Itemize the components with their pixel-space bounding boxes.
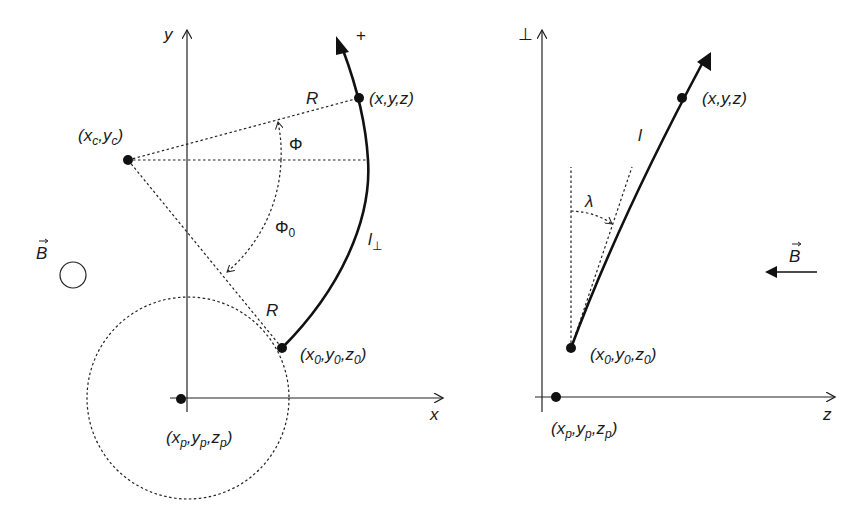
phi-angle-arc <box>278 122 281 160</box>
z-axis-label: z <box>822 405 832 424</box>
phi0-angle-arc <box>227 160 281 272</box>
start-point-label: (x0,y0,z0) <box>590 345 656 367</box>
x-axis-label: x <box>429 405 439 424</box>
radius-label-top: R <box>306 89 318 108</box>
y-axis-label: y <box>163 25 174 44</box>
start-point-label: (x0,y0,z0) <box>300 345 366 367</box>
length-label: l <box>638 126 643 145</box>
phi0-label: Φ0 <box>275 218 296 240</box>
left-panel: y x + (xc,yc) (x,y,z) (x0,y0,z0) ( <box>36 25 443 499</box>
helix-track-diagram: y x + (xc,yc) (x,y,z) (x0,y0,z0) ( <box>0 0 861 514</box>
reference-point-label: (xp,yp,zp) <box>166 428 232 450</box>
field-out-of-plane-icon <box>60 262 86 288</box>
reference-point-label: (xp,yp,zp) <box>551 419 617 441</box>
radius-line-bottom <box>128 160 282 348</box>
center-point-label: (xc,yc) <box>78 126 123 148</box>
right-panel: ⊥ z (x,y,z) (x0,y0,z0) (xp,yp,zp) l λ B <box>518 25 835 441</box>
start-point <box>566 343 576 353</box>
charge-sign: + <box>356 26 366 45</box>
field-label-left: B <box>36 244 47 263</box>
start-point <box>277 343 287 353</box>
lambda-angle-arc <box>571 211 612 224</box>
field-label-right: B <box>789 247 800 266</box>
phi-label: Φ <box>289 135 303 154</box>
reference-point <box>551 392 561 402</box>
field-direction-arrow-icon <box>765 266 777 278</box>
center-point <box>123 155 133 165</box>
arc-length-label: l⊥ <box>368 230 382 253</box>
current-point <box>677 93 687 103</box>
current-point <box>354 93 364 103</box>
perp-axis-label: ⊥ <box>518 25 533 44</box>
current-point-label: (x,y,z) <box>702 89 747 108</box>
track-direction-arrow-icon <box>336 36 349 55</box>
lambda-label: λ <box>584 192 593 211</box>
radius-label-bottom: R <box>266 301 278 320</box>
radius-line-top <box>128 98 359 160</box>
reference-point <box>176 394 186 404</box>
current-point-label: (x,y,z) <box>369 89 414 108</box>
